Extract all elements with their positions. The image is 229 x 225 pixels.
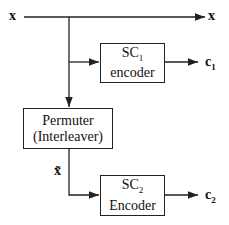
xtilde-label: x̃ — [54, 163, 61, 179]
output-x-label: x — [208, 8, 215, 24]
input-x-label: x — [9, 8, 16, 24]
sc2-name: SC — [122, 177, 139, 192]
sc1-line2: encoder — [110, 65, 154, 81]
c2-sub: 2 — [211, 195, 216, 205]
permuter-line2: (Interleaver) — [33, 129, 103, 145]
c1-label: c1 — [205, 54, 216, 72]
sc2-encoder-box: SC2 Encoder — [100, 175, 165, 216]
sc1-sub: 1 — [139, 52, 144, 62]
sc1-encoder-box: SC1 encoder — [100, 43, 165, 83]
diagram: x x SC1 encoder c1 Permuter (Interleaver… — [0, 0, 229, 225]
c1-sub: 1 — [211, 62, 216, 72]
c2-label: c2 — [205, 187, 216, 205]
permuter-line1: Permuter — [42, 113, 93, 129]
sc2-line2: Encoder — [109, 198, 156, 214]
sc2-sub: 2 — [139, 185, 144, 195]
sc1-name: SC — [122, 45, 139, 60]
permuter-box: Permuter (Interleaver) — [23, 108, 113, 149]
